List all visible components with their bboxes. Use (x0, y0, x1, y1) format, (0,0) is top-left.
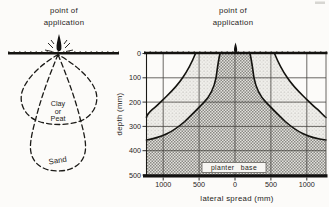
spread-depth-chart: point of application planter base (115, 6, 328, 203)
clay-label-line3: Peat (51, 114, 66, 123)
x-tick-label: 1000 (299, 180, 315, 189)
y-tick-label: 400 (129, 146, 141, 155)
sand-label: Sand (48, 155, 67, 167)
x-tick-label: 500 (193, 180, 205, 189)
y-tick-label: 0 (137, 49, 141, 58)
chart-title-line1: point of (219, 6, 248, 15)
lateral-spread-axis-label: lateral spread (mm) (200, 194, 273, 203)
figure-canvas: point of application Clay or Peat Sand p… (0, 0, 329, 207)
page-edge-mark (315, 2, 325, 5)
planter-base-label: planter base (211, 164, 257, 172)
left-title-line1: point of (50, 6, 79, 15)
x-tick-label: 1000 (155, 180, 171, 189)
x-tick-label: 0 (233, 180, 237, 189)
chart-title-line2: application (213, 18, 254, 27)
y-tick-label: 100 (129, 73, 141, 82)
depth-axis-label: depth (mm) (115, 92, 124, 135)
y-tick-label: 200 (129, 98, 141, 107)
y-tick-marks (143, 54, 147, 176)
y-tick-label: 300 (129, 122, 141, 131)
figure-svg: point of application Clay or Peat Sand p… (0, 0, 329, 207)
left-title-line2: application (44, 18, 85, 27)
water-drop-icon-left (57, 34, 62, 51)
left-diagram: point of application Clay or Peat Sand (8, 6, 119, 171)
y-tick-label: 500 (129, 171, 141, 180)
water-drop-icon-chart (234, 43, 237, 53)
x-tick-label: 500 (265, 180, 277, 189)
